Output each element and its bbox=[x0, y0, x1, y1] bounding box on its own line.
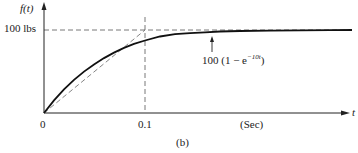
x-tick-0: 0 bbox=[40, 118, 46, 130]
equation-exponent: −10t bbox=[247, 53, 261, 61]
response-curve bbox=[44, 30, 352, 113]
x-axis-label: t bbox=[352, 106, 355, 118]
x-tick-0-1: 0.1 bbox=[138, 118, 152, 130]
x-axis-arrow-icon bbox=[341, 111, 350, 116]
equation-close: ) bbox=[261, 54, 265, 66]
figure-caption: (b) bbox=[176, 136, 189, 148]
curve-equation: 100 (1 − e−10t) bbox=[202, 53, 264, 66]
annotation-arrow-icon bbox=[210, 36, 214, 42]
tangent-line bbox=[44, 30, 145, 113]
y-axis-label: f(t) bbox=[20, 2, 33, 14]
chart-canvas bbox=[0, 0, 358, 153]
equation-main: 100 (1 − e bbox=[202, 54, 247, 66]
x-unit-label: (Sec) bbox=[240, 118, 263, 130]
y-axis-arrow-icon bbox=[42, 2, 47, 10]
y-tick-100: 100 lbs bbox=[4, 22, 36, 34]
